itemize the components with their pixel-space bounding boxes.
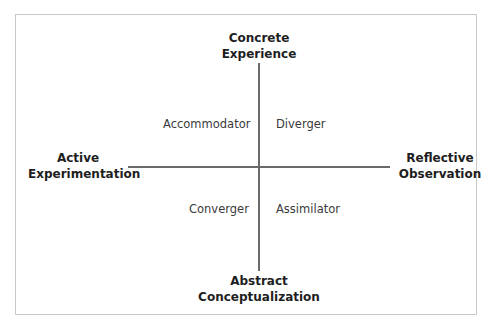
axis-label-left: Active Experimentation bbox=[28, 150, 128, 182]
axis-bottom-line2: Conceptualization bbox=[194, 289, 324, 305]
axis-bottom-line1: Abstract bbox=[194, 273, 324, 289]
axis-label-right: Reflective Observation bbox=[390, 150, 490, 182]
vertical-axis-line bbox=[258, 63, 260, 271]
axis-top-line1: Concrete bbox=[209, 30, 309, 46]
axis-label-top: Concrete Experience bbox=[209, 30, 309, 62]
axis-left-line1: Active bbox=[28, 150, 128, 166]
axis-left-line2: Experimentation bbox=[28, 166, 128, 182]
quadrant-converger: Converger bbox=[189, 202, 249, 216]
quadrant-diverger: Diverger bbox=[276, 117, 326, 131]
quadrant-accommodator: Accommodator bbox=[163, 117, 250, 131]
axis-top-line2: Experience bbox=[209, 46, 309, 62]
quadrant-assimilator: Assimilator bbox=[276, 202, 340, 216]
axis-label-bottom: Abstract Conceptualization bbox=[194, 273, 324, 305]
axis-right-line2: Observation bbox=[390, 166, 490, 182]
axis-right-line1: Reflective bbox=[390, 150, 490, 166]
